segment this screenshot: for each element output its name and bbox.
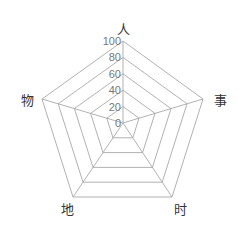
tick-label: 0	[115, 117, 121, 129]
axis-name-label: 事	[214, 93, 227, 108]
axis-name-label: 物	[21, 93, 34, 108]
radar-axis-spokes	[42, 41, 203, 197]
radar-chart: 020406080100 人事时地物	[0, 0, 239, 228]
axis-name-label: 时	[174, 202, 187, 217]
axis-spoke	[73, 123, 123, 197]
axis-spoke	[123, 123, 172, 197]
tick-label: 20	[109, 101, 121, 113]
tick-label: 80	[109, 51, 121, 63]
axis-name-label: 人	[117, 22, 130, 37]
tick-label: 60	[109, 68, 121, 80]
grid-ring-100	[42, 41, 203, 197]
axis-name-label: 地	[61, 202, 74, 217]
tick-label: 40	[109, 84, 121, 96]
radar-grid-rings	[42, 41, 203, 197]
radar-axis-names: 人事时地物	[21, 22, 227, 217]
